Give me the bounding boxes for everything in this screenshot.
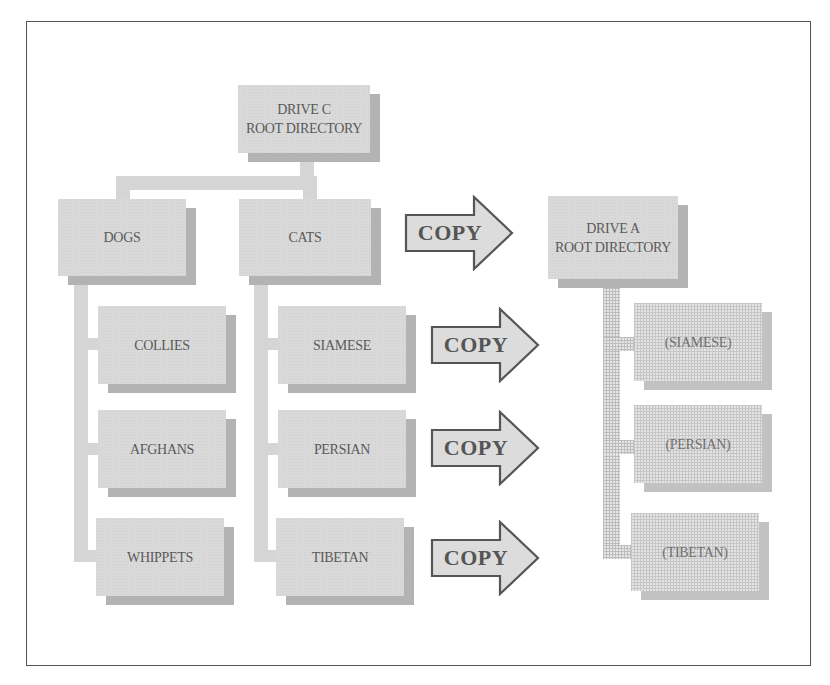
connector-to-dogs [116, 176, 130, 200]
connector-root-horizontal [116, 176, 314, 190]
node-label: WHIPPETS [96, 518, 224, 596]
connector-dogs-collies [74, 338, 100, 350]
node-afghans: AFGHANS [98, 410, 226, 488]
connector-drive-a-vertical [603, 285, 620, 557]
node-label: (TIBETAN) [631, 513, 759, 591]
connector-cats-siamese [254, 338, 280, 350]
node-drive-a-root: DRIVE A ROOT DIRECTORY [548, 196, 678, 279]
node-persian: PERSIAN [278, 410, 406, 488]
node-label: AFGHANS [98, 410, 226, 488]
node-dest-persian: (PERSIAN) [634, 405, 762, 483]
node-label-line2: ROOT DIRECTORY [246, 119, 362, 138]
node-label-line2: ROOT DIRECTORY [555, 238, 671, 257]
node-tibetan: TIBETAN [276, 518, 404, 596]
node-label: SIAMESE [278, 306, 406, 384]
connector-cats-tibetan-corner [254, 535, 268, 562]
connector-to-cats [303, 176, 317, 200]
node-dest-siamese: (SIAMESE) [634, 303, 762, 381]
node-label: (PERSIAN) [634, 405, 762, 483]
node-label-line1: DRIVE A [555, 219, 671, 238]
node-label: PERSIAN [278, 410, 406, 488]
connector-dogs-afghans [74, 443, 100, 455]
copy-label: COPY [430, 410, 514, 486]
copy-arrow-3: COPY [430, 410, 540, 486]
node-cats: CATS [239, 199, 371, 276]
connector-cats-vertical [254, 280, 268, 546]
node-collies: COLLIES [98, 306, 226, 384]
copy-arrow-2: COPY [430, 307, 540, 383]
node-label: COLLIES [98, 306, 226, 384]
node-face: DRIVE A ROOT DIRECTORY [548, 196, 678, 279]
node-face: DRIVE C ROOT DIRECTORY [238, 85, 370, 153]
copy-label: COPY [404, 195, 488, 271]
node-dogs: DOGS [58, 199, 186, 276]
connector-dogs-whippets-corner [74, 535, 88, 562]
node-label: (SIAMESE) [634, 303, 762, 381]
node-label-line1: DRIVE C [246, 100, 362, 119]
node-label: CATS [239, 199, 371, 276]
node-dest-tibetan: (TIBETAN) [631, 513, 759, 591]
copy-arrow-4: COPY [430, 520, 540, 596]
connector-drive-a-siamese [603, 337, 635, 351]
node-whippets: WHIPPETS [96, 518, 224, 596]
node-label: TIBETAN [276, 518, 404, 596]
copy-arrow-1: COPY [404, 195, 514, 271]
node-label: DOGS [58, 199, 186, 276]
connector-cats-persian [254, 443, 280, 455]
copy-label: COPY [430, 520, 514, 596]
node-siamese: SIAMESE [278, 306, 406, 384]
connector-dogs-vertical [74, 280, 88, 546]
copy-label: COPY [430, 307, 514, 383]
connector-drive-a-persian [603, 440, 635, 454]
node-drive-c-root: DRIVE C ROOT DIRECTORY [238, 85, 370, 153]
